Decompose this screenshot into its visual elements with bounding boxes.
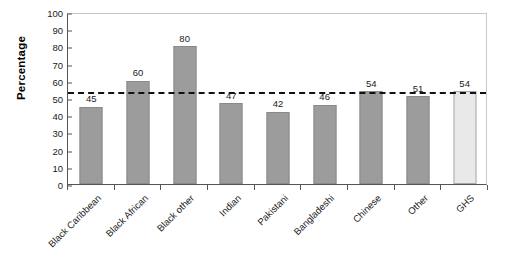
x-tick-mark (67, 185, 68, 190)
x-axis-label-text: Other (406, 193, 430, 217)
x-axis-label-text: GHS (455, 193, 476, 214)
bar-group: 51 (395, 14, 442, 184)
y-tick-label: 40 (52, 112, 63, 122)
bar (406, 96, 429, 184)
x-axis-label-text: Black other (156, 193, 196, 233)
bar-group: 42 (255, 14, 302, 184)
y-tick-label: 70 (52, 61, 63, 71)
bar-value-label: 54 (459, 79, 470, 89)
reference-line (68, 92, 486, 94)
bar-chart: Percentage 1009080706050403020100 456080… (0, 0, 510, 276)
bar (266, 112, 289, 184)
bar-value-label: 45 (86, 94, 97, 104)
y-tick-label: 100 (47, 9, 63, 19)
x-axis-label-text: Bangladeshi (292, 193, 336, 237)
bar (80, 107, 103, 184)
bar-group: 47 (208, 14, 255, 184)
y-tick-label: 50 (52, 95, 63, 105)
y-tick-label: 10 (52, 164, 63, 174)
bar-group: 54 (348, 14, 395, 184)
y-tick-label: 80 (52, 44, 63, 54)
y-tick-label: 30 (52, 130, 63, 140)
y-axis-title: Percentage (15, 23, 27, 113)
bar-group: 46 (301, 14, 348, 184)
x-axis-label-text: Indian (218, 193, 243, 218)
bar-value-label: 42 (273, 99, 284, 109)
bar-value-label: 80 (179, 34, 190, 44)
y-tick-label: 0 (58, 181, 63, 191)
x-axis-label-text: Black African (104, 193, 150, 239)
bar (453, 91, 476, 184)
x-axis-label-text: Pakistani (255, 193, 289, 227)
x-axis-label-text: Chinese (351, 193, 382, 224)
y-tick-label: 60 (52, 78, 63, 88)
bar-group: 45 (68, 14, 115, 184)
y-tick-label: 20 (52, 147, 63, 157)
y-tick-mark (68, 186, 72, 187)
bar-group: 54 (441, 14, 488, 184)
bar-value-label: 54 (366, 79, 377, 89)
y-tick-label: 90 (52, 26, 63, 36)
bar-value-label: 60 (133, 68, 144, 78)
x-axis-label-text: Black Caribbean (47, 193, 103, 249)
